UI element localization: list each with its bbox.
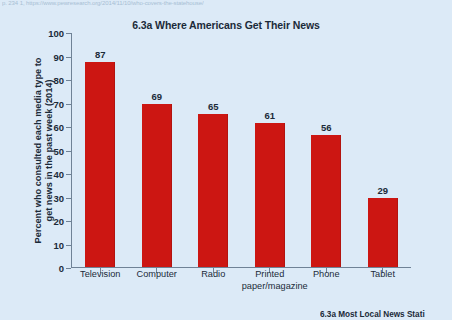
bar-value-label: 61 (264, 110, 275, 121)
bar-value-label: 65 (208, 101, 219, 112)
bar-slot: 61 (242, 33, 298, 267)
x-tick-label-line1: Tablet (370, 269, 395, 279)
source-citation-line: p. 234 1, https://www.pewresearch.org/20… (2, 0, 332, 7)
y-tick-label: 70 (53, 98, 64, 109)
y-tick-mark (66, 104, 71, 105)
y-tick-mark (66, 268, 71, 269)
bar-slot: 65 (185, 33, 241, 267)
y-tick-label: 100 (48, 28, 64, 39)
bar[interactable] (368, 198, 398, 266)
x-tick-label-line1: Television (80, 269, 120, 279)
y-tick-label: 90 (53, 51, 64, 62)
x-tick-label: Radio (185, 269, 241, 292)
x-axis-labels: TelevisionComputerRadioPrintedpaper/maga… (72, 269, 411, 292)
y-tick-label: 40 (53, 169, 64, 180)
x-tick-label-line1: Radio (201, 269, 225, 279)
y-tick-label: 30 (53, 192, 64, 203)
y-axis-caption-line1: Percent who consulted each media type to (33, 58, 43, 244)
y-tick-mark (66, 151, 71, 152)
bar-slot: 69 (129, 33, 185, 267)
bar-value-label: 56 (321, 122, 332, 133)
bar[interactable] (198, 114, 228, 267)
bar-value-label: 29 (377, 185, 388, 196)
bar-slot: 56 (298, 33, 354, 267)
bar-series: 876965615629 (72, 33, 411, 267)
bar[interactable] (85, 62, 115, 266)
y-tick-mark (66, 127, 71, 128)
bar[interactable] (142, 104, 172, 266)
y-tick-mark (66, 57, 71, 58)
bar-value-label: 69 (151, 91, 162, 102)
x-tick-label: Phone (298, 269, 354, 292)
x-tick-label-line2: paper/magazine (242, 281, 298, 293)
x-tick-label-line1: Computer (137, 269, 177, 279)
y-tick-mark (66, 174, 71, 175)
bar[interactable] (311, 135, 341, 267)
y-tick-mark (66, 245, 71, 246)
x-tick-label: Television (72, 269, 128, 292)
bar-value-label: 87 (95, 49, 106, 60)
y-tick-mark (66, 80, 71, 81)
y-tick-label: 20 (53, 216, 64, 227)
bar[interactable] (255, 123, 285, 266)
bar-slot: 87 (72, 33, 128, 267)
y-tick-mark (66, 198, 71, 199)
chart-title: 6.3a Where Americans Get Their News (0, 19, 452, 31)
y-tick-label: 0 (59, 263, 64, 274)
plot-area: Percent who consulted each media type to… (71, 33, 411, 268)
x-tick-label: Tablet (355, 269, 411, 292)
y-tick-label: 80 (53, 75, 64, 86)
y-tick-label: 60 (53, 122, 64, 133)
x-tick-label-line1: Phone (313, 269, 340, 279)
y-tick-mark (66, 33, 71, 34)
y-tick-label: 50 (53, 145, 64, 156)
y-tick-mark (66, 221, 71, 222)
x-tick-label-line1: Printed (255, 269, 284, 279)
next-figure-caption: 6.3a Most Local News Stati (320, 309, 452, 320)
bar-slot: 29 (355, 33, 411, 267)
y-tick-label: 10 (53, 239, 64, 250)
x-tick-label: Computer (129, 269, 185, 292)
x-tick-label: Printedpaper/magazine (242, 269, 298, 292)
figure-page: p. 234 1, https://www.pewresearch.org/20… (0, 0, 452, 320)
